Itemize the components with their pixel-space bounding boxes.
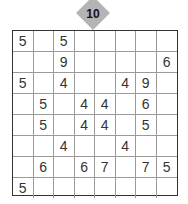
grid-cell[interactable]: 5: [136, 115, 157, 136]
grid-cell[interactable]: [116, 157, 137, 178]
grid-cell[interactable]: [116, 31, 137, 52]
grid-cell[interactable]: [116, 94, 137, 115]
grid-cell[interactable]: [136, 31, 157, 52]
grid-cell[interactable]: 6: [157, 52, 178, 73]
grid-cell[interactable]: [34, 73, 55, 94]
grid-cell[interactable]: [75, 136, 96, 157]
grid-cell[interactable]: [116, 178, 137, 198]
grid-cell[interactable]: 4: [116, 136, 137, 157]
grid-cell[interactable]: [75, 52, 96, 73]
grid-cell[interactable]: 4: [54, 136, 75, 157]
grid-cell[interactable]: 5: [13, 178, 34, 198]
grid-cell[interactable]: [95, 178, 116, 198]
grid-cell[interactable]: [136, 52, 157, 73]
grid-cell[interactable]: [116, 115, 137, 136]
grid-cell[interactable]: 4: [75, 115, 96, 136]
grid-cell[interactable]: [157, 31, 178, 52]
grid-cell[interactable]: 4: [75, 94, 96, 115]
puzzle-grid: 559654495446544544667755: [12, 30, 178, 196]
grid-cell[interactable]: [157, 73, 178, 94]
grid-cell[interactable]: 5: [13, 31, 34, 52]
grid-cell[interactable]: 6: [34, 157, 55, 178]
grid-cell[interactable]: [13, 52, 34, 73]
grid-cell[interactable]: [75, 73, 96, 94]
grid-cell[interactable]: [157, 94, 178, 115]
grid-cell[interactable]: [34, 178, 55, 198]
grid-cell[interactable]: 5: [34, 115, 55, 136]
grid-cell[interactable]: [157, 178, 178, 198]
grid-cell[interactable]: [95, 31, 116, 52]
grid-cell[interactable]: [34, 136, 55, 157]
grid-cell[interactable]: [157, 136, 178, 157]
grid-cell[interactable]: 5: [34, 94, 55, 115]
grid-cell[interactable]: [54, 178, 75, 198]
grid-cell[interactable]: [95, 73, 116, 94]
grid-cell[interactable]: [54, 94, 75, 115]
grid-cell[interactable]: [13, 115, 34, 136]
grid-cell[interactable]: 7: [136, 157, 157, 178]
grid-cell[interactable]: 4: [95, 115, 116, 136]
grid-cell[interactable]: [75, 31, 96, 52]
grid-cell[interactable]: [95, 136, 116, 157]
grid-cell[interactable]: [34, 31, 55, 52]
grid-cell[interactable]: 4: [116, 73, 137, 94]
grid-cell[interactable]: [13, 94, 34, 115]
grid-cell[interactable]: 5: [13, 73, 34, 94]
grid-cell[interactable]: [54, 115, 75, 136]
grid-cell[interactable]: 4: [54, 73, 75, 94]
grid-cell[interactable]: [34, 52, 55, 73]
grid-cell[interactable]: [95, 52, 116, 73]
grid-cell[interactable]: [13, 136, 34, 157]
grid-cell[interactable]: 9: [136, 73, 157, 94]
grid-cell[interactable]: 6: [136, 94, 157, 115]
grid-cell[interactable]: [116, 52, 137, 73]
grid-cell[interactable]: [54, 157, 75, 178]
grid-cell[interactable]: 9: [54, 52, 75, 73]
grid-cell[interactable]: 6: [75, 157, 96, 178]
grid-cell[interactable]: [136, 136, 157, 157]
grid-cell[interactable]: 7: [95, 157, 116, 178]
grid-cell[interactable]: [13, 157, 34, 178]
puzzle-number: 10: [72, 6, 114, 22]
grid-cell[interactable]: [75, 178, 96, 198]
grid-cell[interactable]: [157, 115, 178, 136]
grid-cell[interactable]: 5: [54, 31, 75, 52]
grid-cell[interactable]: [136, 178, 157, 198]
grid-cell[interactable]: 4: [95, 94, 116, 115]
grid-cell[interactable]: 5: [157, 157, 178, 178]
